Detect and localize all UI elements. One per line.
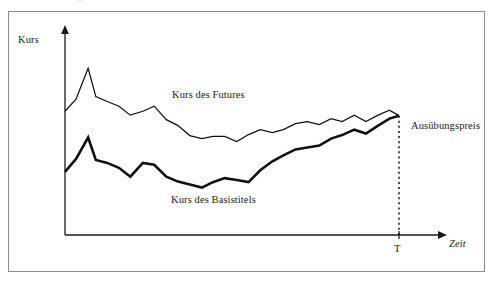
x-axis-group xyxy=(65,231,447,239)
series-label-underlying: Kurs des Basistitels xyxy=(171,194,256,205)
series-line-underlying xyxy=(65,116,399,188)
x-axis-tick-label-T: T xyxy=(394,243,401,254)
y-axis-arrowhead xyxy=(61,25,69,34)
strike-price-label: Ausübungspreis xyxy=(411,120,480,131)
figure-root: Abbildung Kurs Zeit T Kurs des Futures K… xyxy=(0,0,494,284)
series-line-futures xyxy=(65,68,399,141)
y-axis-group xyxy=(61,25,69,235)
x-axis-label: Zeit xyxy=(449,238,466,249)
series-label-futures: Kurs des Futures xyxy=(172,89,245,100)
chart-canvas xyxy=(0,0,494,284)
x-axis-arrowhead xyxy=(438,231,447,239)
y-axis-label: Kurs xyxy=(18,34,39,45)
